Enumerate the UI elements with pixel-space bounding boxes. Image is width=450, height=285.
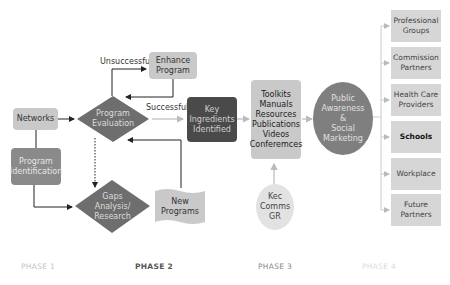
kec-line3: GR — [269, 212, 281, 222]
kec-line2: Comms — [260, 202, 290, 212]
public-awareness-ellipse: Public Awareness & Social Marketing — [313, 82, 373, 155]
new-programs-shape: New Programs — [155, 188, 205, 225]
program-identification-line1: Program — [19, 157, 53, 167]
target-line: Future — [404, 200, 428, 210]
target-line: Schools — [400, 132, 433, 142]
target-line: Partners — [400, 210, 431, 220]
connector-lines — [0, 0, 450, 285]
target-line: Workplace — [396, 169, 435, 179]
target-professional-groups: Professional Groups — [391, 10, 441, 42]
target-future-partners: Future Partners — [391, 194, 441, 226]
target-commission-partners: Commission Partners — [391, 47, 441, 79]
key-ingredients-line3: Identified — [193, 125, 231, 135]
enhance-program-box: Enhance Program — [149, 52, 197, 79]
target-line: Groups — [403, 26, 430, 36]
enhance-program-line1: Enhance — [156, 56, 191, 66]
program-identification-line2: Identification — [10, 167, 62, 177]
networks-label: Networks — [17, 114, 55, 124]
new-programs-line2: Programs — [161, 207, 199, 217]
kec-line1: Kec — [268, 192, 282, 202]
phase-2-label: PHASE 2 — [135, 262, 173, 271]
unsuccessful-label: Unsuccessful — [100, 57, 152, 66]
kec-comms-ellipse: Kec Comms GR — [256, 184, 294, 230]
new-programs-line1: New — [171, 197, 188, 207]
key-ingredients-box: Key Ingredients Identified — [187, 97, 237, 142]
key-ingredients-line2: Ingredients — [189, 115, 234, 125]
resources-box: Toolkits Manuals Resources Publications … — [251, 80, 301, 159]
program-evaluation-diamond: Program Evaluation — [77, 96, 149, 142]
gaps-line1: Gaps — [102, 192, 122, 202]
gaps-line2: Analysis/ — [95, 202, 131, 212]
resources-item: Publications — [252, 120, 300, 130]
successful-label: Successful — [146, 103, 188, 112]
public-line3: & — [340, 114, 346, 124]
enhance-program-line2: Program — [156, 66, 190, 76]
target-schools: Schools — [391, 121, 441, 153]
target-line: Commission — [393, 53, 439, 63]
target-health-care-providers: Health Care Providers — [391, 84, 441, 116]
target-workplace: Workplace — [391, 158, 441, 190]
target-line: Providers — [399, 100, 434, 110]
target-line: Health Care — [394, 90, 438, 100]
key-ingredients-line1: Key — [205, 105, 220, 115]
phase-1-label: PHASE 1 — [21, 262, 55, 271]
public-line1: Public — [331, 94, 355, 104]
networks-box: Networks — [13, 108, 58, 130]
public-line5: Marketing — [323, 134, 363, 144]
resources-item: Toolkits — [261, 90, 291, 100]
public-line4: Social — [331, 124, 355, 134]
resources-item: Resources — [256, 110, 297, 120]
resources-item: Manuals — [259, 100, 292, 110]
target-line: Professional — [393, 16, 438, 26]
phase-3-label: PHASE 3 — [258, 262, 292, 271]
target-line: Partners — [400, 63, 431, 73]
program-identification-box: Program Identification — [11, 148, 61, 185]
program-evaluation-line2: Evaluation — [92, 119, 134, 129]
phase-4-label: PHASE 4 — [362, 262, 396, 271]
resources-item: Videos — [263, 130, 290, 140]
program-evaluation-line1: Program — [96, 109, 130, 119]
resources-item: Conferemces — [250, 140, 303, 150]
public-line2: Awareness — [322, 104, 365, 114]
gaps-analysis-diamond: Gaps Analysis/ Research — [75, 180, 150, 233]
gaps-line3: Research — [94, 212, 131, 222]
